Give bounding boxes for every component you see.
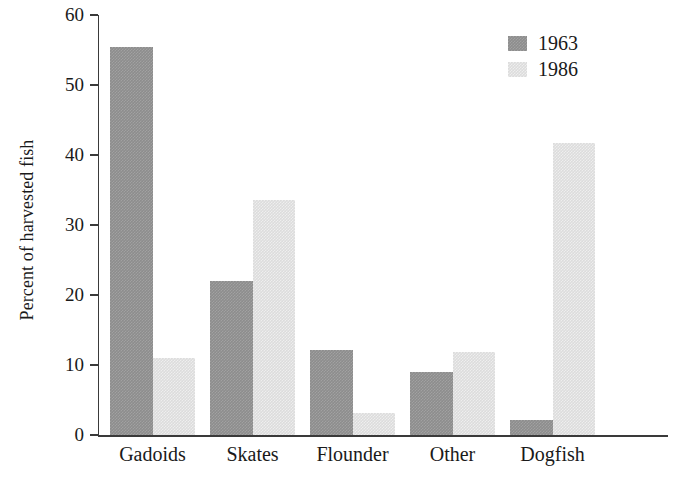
bar-flounder-1986: [353, 413, 396, 435]
y-axis-title: Percent of harvested fish: [10, 20, 44, 440]
bar-skates-1986: [253, 200, 296, 435]
legend-label-1986: 1986: [538, 59, 578, 79]
x-axis-label-other: Other: [430, 443, 476, 466]
legend-label-1963: 1963: [538, 33, 578, 53]
y-axis-tick-mark: [90, 14, 98, 15]
legend: 19631986: [508, 32, 578, 84]
y-axis-tick-mark: [90, 364, 98, 365]
y-axis-tick-mark: [90, 84, 98, 85]
x-axis-label-gadoids: Gadoids: [119, 443, 186, 466]
y-axis-tick-mark: [90, 434, 98, 435]
y-axis-tick-label: 40: [48, 144, 84, 166]
bar-chart: Percent of harvested fish 0102030405060 …: [0, 0, 689, 495]
x-axis-label-flounder: Flounder: [316, 443, 388, 466]
y-axis-tick-label: 10: [48, 354, 84, 376]
y-axis-tick-mark: [90, 154, 98, 155]
legend-entry-1963: 1963: [508, 32, 578, 54]
bar-gadoids-1963: [110, 47, 153, 436]
y-axis-tick-label: 50: [48, 74, 84, 96]
y-axis-tick-label: 60: [48, 4, 84, 26]
bar-flounder-1963: [310, 350, 353, 435]
y-axis-tick-mark: [90, 224, 98, 225]
x-axis-label-dogfish: Dogfish: [520, 443, 584, 466]
bar-gadoids-1986: [153, 358, 196, 435]
y-axis-tick-label: 20: [48, 284, 84, 306]
y-axis-tick-label: 30: [48, 214, 84, 236]
bar-dogfish-1963: [510, 420, 553, 435]
y-axis-tick-mark: [90, 294, 98, 295]
bar-skates-1963: [210, 281, 253, 435]
plot-area: [98, 15, 668, 435]
bar-other-1986: [453, 352, 496, 435]
bar-dogfish-1986: [553, 143, 596, 435]
bar-other-1963: [410, 372, 453, 435]
x-axis-label-skates: Skates: [226, 443, 278, 466]
legend-entry-1986: 1986: [508, 58, 578, 80]
y-axis-tick-label: 0: [48, 424, 84, 446]
x-axis-line: [98, 435, 668, 437]
dark-gray-swatch: [508, 36, 527, 51]
light-gray-swatch: [508, 62, 527, 77]
